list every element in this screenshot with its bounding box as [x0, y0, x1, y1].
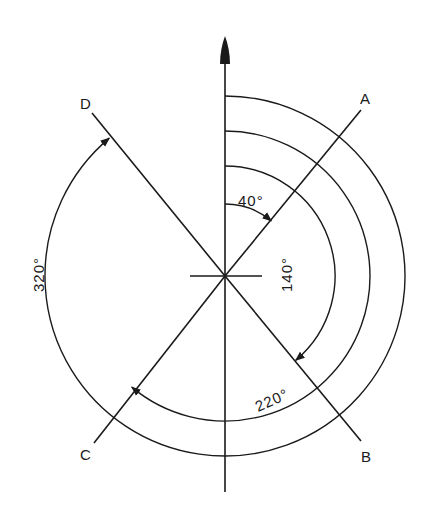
angle-label-140: 140°	[278, 257, 295, 292]
north-arrow-icon	[220, 36, 230, 64]
angle-label-220: 220°	[252, 385, 291, 415]
north-axis	[220, 36, 230, 492]
label-C: C	[80, 446, 91, 463]
angle-label-320: 320°	[30, 257, 47, 292]
label-D: D	[80, 95, 91, 112]
label-B: B	[361, 448, 371, 465]
line-D	[92, 113, 225, 276]
line-B	[225, 276, 361, 441]
label-A: A	[360, 90, 370, 107]
angle-label-40: 40°	[238, 192, 264, 209]
azimuth-diagram: A B C D 40° 140° 220° 320°	[0, 0, 422, 517]
